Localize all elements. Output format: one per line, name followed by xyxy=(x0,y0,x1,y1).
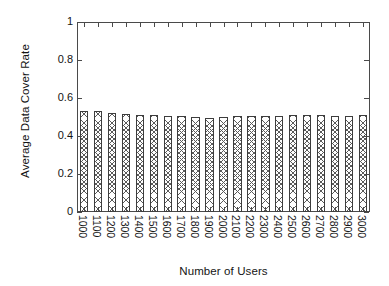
y-tick-mark xyxy=(77,98,82,99)
x-tick-mark-top xyxy=(335,22,336,27)
x-tick-mark xyxy=(154,207,155,212)
bar xyxy=(261,116,269,212)
x-tick-mark-top xyxy=(168,22,169,27)
x-tick-mark-top xyxy=(349,22,350,27)
x-tick-mark-top xyxy=(237,22,238,27)
y-tick-mark xyxy=(77,136,82,137)
bar xyxy=(359,115,367,212)
x-tick-mark-top xyxy=(265,22,266,27)
x-tick-mark-top xyxy=(293,22,294,27)
x-tick-mark xyxy=(321,207,322,212)
bar xyxy=(345,116,353,212)
x-tick-mark xyxy=(98,207,99,212)
x-tick-mark-top xyxy=(279,22,280,27)
x-tick-mark xyxy=(112,207,113,212)
y-tick-mark-right xyxy=(364,212,369,213)
y-tick-label: 0 xyxy=(13,206,73,217)
x-tick-mark xyxy=(265,207,266,212)
bar xyxy=(108,113,116,212)
x-tick-mark xyxy=(126,207,127,212)
x-tick-mark xyxy=(237,207,238,212)
x-tick-mark-top xyxy=(98,22,99,27)
bar xyxy=(275,116,283,212)
bar xyxy=(331,116,339,212)
y-tick-label: 0.2 xyxy=(13,168,73,179)
y-tick-mark xyxy=(77,60,82,61)
y-tick-mark-right xyxy=(364,98,369,99)
bar xyxy=(122,114,130,212)
x-tick-mark xyxy=(279,207,280,212)
y-tick-mark-right xyxy=(364,136,369,137)
x-tick-mark xyxy=(307,207,308,212)
y-axis-title: Average Data Cover Rate xyxy=(19,11,31,211)
bar xyxy=(164,116,172,212)
x-tick-mark-top xyxy=(307,22,308,27)
bar xyxy=(94,111,102,212)
x-tick-mark-top xyxy=(154,22,155,27)
x-tick-mark-top xyxy=(224,22,225,27)
x-tick-mark xyxy=(251,207,252,212)
bar xyxy=(233,116,241,212)
x-tick-mark-top xyxy=(126,22,127,27)
y-tick-mark-right xyxy=(364,174,369,175)
bar xyxy=(219,117,227,212)
x-tick-mark-top xyxy=(182,22,183,27)
x-tick-mark xyxy=(168,207,169,212)
bar xyxy=(289,115,297,212)
y-tick-mark-right xyxy=(364,22,369,23)
x-tick-mark-top xyxy=(196,22,197,27)
x-tick-mark-top xyxy=(140,22,141,27)
x-tick-mark xyxy=(210,207,211,212)
y-tick-mark-right xyxy=(364,60,369,61)
x-tick-mark xyxy=(335,207,336,212)
x-tick-mark xyxy=(84,207,85,212)
x-tick-mark xyxy=(293,207,294,212)
y-tick-label: 0.6 xyxy=(13,92,73,103)
x-axis-title: Number of Users xyxy=(77,265,370,277)
x-tick-mark-top xyxy=(251,22,252,27)
x-tick-mark xyxy=(224,207,225,212)
bar xyxy=(317,115,325,212)
bar xyxy=(136,115,144,212)
bar xyxy=(191,117,199,212)
bar xyxy=(177,116,185,212)
y-tick-label: 1 xyxy=(13,16,73,27)
y-tick-mark xyxy=(77,22,82,23)
bar xyxy=(303,115,311,212)
bar xyxy=(205,118,213,212)
x-tick-mark xyxy=(140,207,141,212)
y-tick-label: 0.8 xyxy=(13,54,73,65)
bars-layer xyxy=(77,22,370,212)
y-tick-mark xyxy=(77,212,82,213)
x-tick-mark-top xyxy=(112,22,113,27)
y-tick-label: 0.4 xyxy=(13,130,73,141)
x-tick-mark-top xyxy=(210,22,211,27)
bar-chart: Average Data Cover Rate 00.20.40.60.81 1… xyxy=(0,0,389,286)
y-tick-mark xyxy=(77,174,82,175)
x-tick-mark xyxy=(349,207,350,212)
x-tick-mark-top xyxy=(321,22,322,27)
bar xyxy=(247,116,255,212)
bar xyxy=(150,115,158,212)
bar xyxy=(80,111,88,212)
x-tick-mark xyxy=(196,207,197,212)
x-tick-mark xyxy=(182,207,183,212)
x-tick-mark-top xyxy=(84,22,85,27)
